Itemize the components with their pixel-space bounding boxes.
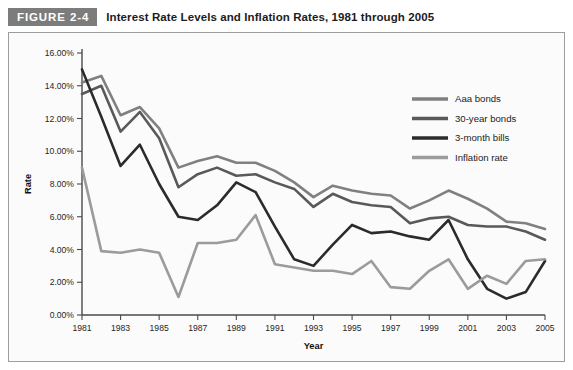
x-tick-label: 1995 xyxy=(343,323,362,333)
legend-label-inflation-rate: Inflation rate xyxy=(455,152,508,163)
legend-label-aaa-bonds: Aaa bonds xyxy=(455,93,501,104)
x-tick-label: 1981 xyxy=(72,323,91,333)
legend-label-30-year-bonds: 30-year bonds xyxy=(455,113,517,124)
figure-caption-row: FIGURE 2-4 Interest Rate Levels and Infl… xyxy=(8,8,434,26)
x-tick-label: 1991 xyxy=(265,323,284,333)
x-tick-label: 1993 xyxy=(304,323,323,333)
y-tick-label: 14.00% xyxy=(45,81,75,91)
x-tick-label: 1985 xyxy=(150,323,169,333)
chart-container: 0.00%2.00%4.00%6.00%8.00%10.00%12.00%14.… xyxy=(8,32,565,362)
figure-caption-title: Interest Rate Levels and Inflation Rates… xyxy=(106,11,434,23)
y-tick-label: 8.00% xyxy=(50,179,75,189)
y-axis-title: Rate xyxy=(23,174,33,194)
series-line-inflation-rate xyxy=(82,168,545,297)
x-tick-label: 1989 xyxy=(227,323,246,333)
x-tick-label: 1997 xyxy=(381,323,400,333)
x-tick-label: 2005 xyxy=(535,323,554,333)
y-tick-label: 12.00% xyxy=(45,114,75,124)
x-tick-label: 2003 xyxy=(497,323,516,333)
y-tick-label: 6.00% xyxy=(50,212,75,222)
figure-number-badge: FIGURE 2-4 xyxy=(8,8,97,26)
x-tick-label: 2001 xyxy=(458,323,477,333)
x-tick-label: 1983 xyxy=(111,323,130,333)
y-tick-label: 16.00% xyxy=(45,48,75,58)
y-tick-label: 4.00% xyxy=(50,245,75,255)
figure-page: FIGURE 2-4 Interest Rate Levels and Infl… xyxy=(0,0,573,370)
y-tick-label: 2.00% xyxy=(50,277,75,287)
x-tick-label: 1999 xyxy=(420,323,439,333)
y-tick-label: 10.00% xyxy=(45,146,75,156)
legend-label-3-month-bills: 3-month bills xyxy=(455,132,510,143)
line-chart: 0.00%2.00%4.00%6.00%8.00%10.00%12.00%14.… xyxy=(9,33,564,361)
x-tick-label: 1987 xyxy=(188,323,207,333)
x-axis-title: Year xyxy=(304,341,324,351)
y-tick-label: 0.00% xyxy=(50,310,75,320)
